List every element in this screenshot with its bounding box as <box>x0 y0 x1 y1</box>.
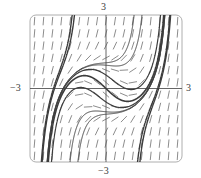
slope-segment <box>150 29 151 37</box>
slope-segment <box>60 127 62 135</box>
slope-segment <box>177 17 178 25</box>
slope-segment <box>77 54 81 61</box>
slope-segment <box>43 29 44 37</box>
slope-segment <box>34 54 35 62</box>
slope-segment <box>177 29 178 37</box>
slope-segment <box>78 127 81 135</box>
slope-segment <box>120 93 128 96</box>
slope-segment <box>168 78 170 86</box>
slope-segment <box>120 81 128 84</box>
slope-segment <box>69 54 72 62</box>
slope-segment <box>150 54 152 62</box>
slope-segment <box>76 105 83 110</box>
slope-segment <box>84 81 92 84</box>
slope-segment <box>87 127 90 135</box>
slope-segment <box>61 152 62 160</box>
slope-segment <box>177 41 178 49</box>
slope-segment <box>140 115 143 123</box>
slope-segment <box>75 82 83 83</box>
slope-segment <box>85 55 91 61</box>
slope-segment <box>69 115 72 123</box>
slope-segment <box>61 139 62 147</box>
slope-segment <box>177 54 178 62</box>
slope-segment <box>79 17 80 25</box>
slope-segment <box>132 140 134 148</box>
slope-segment <box>60 42 62 50</box>
slope-segment <box>34 90 35 98</box>
slope-segment <box>114 152 115 160</box>
slope-segment <box>123 17 124 25</box>
slope-segment <box>177 66 178 74</box>
slope-segment <box>122 42 125 50</box>
slope-segment <box>140 54 143 62</box>
slope-segment <box>52 29 53 37</box>
slope-segment <box>129 94 137 95</box>
slope-segment <box>139 67 144 74</box>
slope-segment <box>141 42 143 50</box>
slope-segment <box>150 115 152 123</box>
slope-segment <box>96 140 98 148</box>
slope-segment <box>141 29 142 37</box>
slope-segment <box>149 91 153 99</box>
slope-segment <box>168 91 170 99</box>
slope-field-diagram <box>0 0 201 178</box>
slope-segment <box>111 117 118 122</box>
slope-segment <box>113 128 117 136</box>
slope-segment <box>59 79 63 87</box>
slope-segment <box>43 91 45 99</box>
slope-segment <box>95 128 99 136</box>
slope-segment <box>139 103 144 110</box>
slope-segment <box>87 42 90 50</box>
slope-segment <box>114 17 115 25</box>
slope-segment <box>132 152 133 160</box>
slope-segment <box>96 29 98 37</box>
slope-segment <box>94 56 101 61</box>
slope-segment <box>34 29 35 37</box>
slope-segment <box>70 139 71 147</box>
slope-segment <box>87 29 89 37</box>
slope-segment <box>88 152 89 160</box>
slope-segment <box>113 42 117 50</box>
slope-segment <box>34 152 35 160</box>
slope-segment <box>132 42 135 50</box>
slope-segment <box>159 152 160 160</box>
slope-segment <box>168 139 169 147</box>
slope-segment <box>114 140 116 148</box>
slope-segment <box>52 54 54 62</box>
slope-segment <box>93 106 101 108</box>
slope-segment <box>60 115 62 123</box>
slope-segment <box>51 78 53 86</box>
slope-segment <box>43 66 45 74</box>
slope-segment <box>159 139 160 147</box>
slope-segment <box>96 17 97 25</box>
slope-segment <box>177 139 178 147</box>
slope-segment <box>168 115 169 123</box>
slope-segment <box>150 17 151 25</box>
slope-segment <box>159 66 161 74</box>
slope-segment <box>34 103 35 111</box>
y-axis-min-label: −3 <box>98 166 109 176</box>
slope-segment <box>51 66 53 74</box>
slope-segment <box>168 103 170 111</box>
slope-segment <box>43 78 45 86</box>
slope-segment <box>84 93 92 96</box>
slope-segment <box>43 115 44 123</box>
slope-segment <box>34 17 35 25</box>
slope-segment <box>129 82 137 83</box>
slope-segment <box>131 116 135 123</box>
slope-segment <box>34 139 35 147</box>
slope-segment <box>159 127 160 135</box>
slope-segment <box>43 41 44 49</box>
slope-segment <box>123 140 125 148</box>
slope-segment <box>95 42 99 50</box>
slope-segment <box>177 103 178 111</box>
slope-segment <box>34 41 35 49</box>
slope-segment <box>43 17 44 25</box>
slope-segment <box>78 29 80 37</box>
x-axis-max-label: 3 <box>186 83 191 93</box>
slope-segment <box>61 17 62 25</box>
slope-segment <box>69 127 71 135</box>
slope-segment <box>87 140 89 148</box>
slope-segment <box>177 127 178 135</box>
slope-segment <box>60 54 62 62</box>
